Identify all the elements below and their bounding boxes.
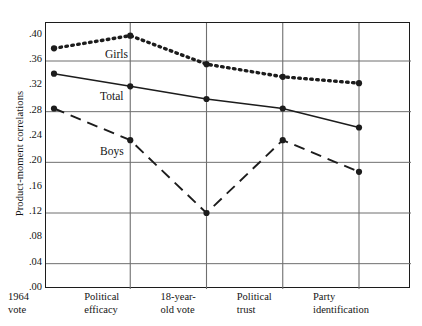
chart-figure: Product-moment correlations .00.04.08.12… — [0, 0, 422, 326]
data-point-boys-3 — [280, 137, 286, 143]
y-tick-label: .24 — [16, 130, 42, 140]
series-label-girls: Girls — [105, 48, 128, 60]
data-point-total-4 — [356, 124, 362, 130]
x-axis-tick-labels: 1964votePoliticalefficacy18-year-old vot… — [0, 291, 422, 326]
series-label-boys: Boys — [100, 145, 124, 157]
data-point-girls-4 — [356, 80, 362, 86]
y-tick-label: .40 — [16, 29, 42, 39]
y-tick-label: .12 — [16, 206, 42, 216]
data-point-total-1 — [127, 83, 133, 89]
x-tick-label-4: Partyidentification — [313, 291, 403, 316]
data-point-girls-3 — [280, 74, 286, 80]
data-point-total-0 — [51, 71, 57, 77]
y-tick-label: .28 — [16, 105, 42, 115]
y-tick-label: .04 — [16, 257, 42, 267]
data-point-boys-4 — [356, 169, 362, 175]
data-point-boys-0 — [51, 105, 57, 111]
series-label-total: Total — [100, 90, 123, 102]
data-point-total-3 — [280, 105, 286, 111]
data-point-boys-1 — [127, 137, 133, 143]
y-axis-tick-labels: .00.04.08.12.16.20.24.28.32.36.40 — [14, 0, 42, 326]
x-tick-label-line: identification — [313, 304, 403, 317]
y-tick-label: .36 — [16, 54, 42, 64]
data-point-boys-2 — [203, 210, 209, 216]
y-tick-label: .08 — [16, 231, 42, 241]
y-tick-label: .16 — [16, 181, 42, 191]
y-tick-label: .20 — [16, 155, 42, 165]
data-point-total-2 — [203, 96, 209, 102]
data-point-girls-1 — [127, 33, 133, 39]
data-point-girls-0 — [51, 45, 57, 51]
y-tick-label: .32 — [16, 79, 42, 89]
category-gridlines — [130, 23, 359, 289]
x-tick-label-line: Party — [313, 291, 403, 304]
data-point-girls-2 — [203, 61, 209, 67]
